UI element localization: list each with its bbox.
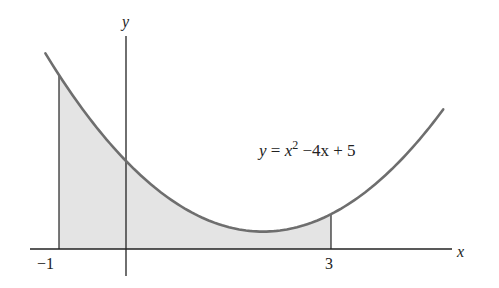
parabola-area-figure: y x −1 3 y = x2 −4x + 5 [0, 0, 499, 288]
tick-label-3: 3 [325, 255, 333, 272]
shaded-area [59, 75, 331, 249]
equation-label: y = x2 −4x + 5 [257, 138, 356, 160]
x-axis-label: x [456, 243, 464, 260]
y-axis-label: y [120, 13, 130, 31]
diagram-canvas: y x −1 3 y = x2 −4x + 5 [0, 0, 499, 288]
tick-label-neg1: −1 [37, 255, 54, 272]
